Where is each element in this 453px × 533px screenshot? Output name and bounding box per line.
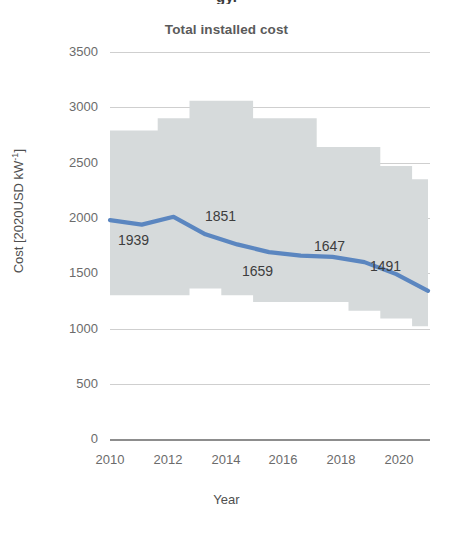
data-label-1491: 1491 [370, 258, 401, 274]
data-label-1647: 1647 [314, 238, 345, 254]
range-band-area [110, 101, 428, 327]
data-label-1851: 1851 [205, 208, 236, 224]
data-label-1659: 1659 [242, 263, 273, 279]
data-label-1939: 1939 [118, 232, 149, 248]
chart-figure: gy. Total installed cost Cost [2020USD k… [0, 0, 453, 533]
